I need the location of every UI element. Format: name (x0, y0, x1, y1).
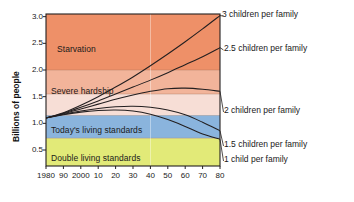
series-label-2-children: 2 children per family (224, 105, 300, 115)
y-tick-label-1.5: 1.5 (18, 92, 43, 101)
x-tick-label-80: 80 (207, 171, 233, 180)
y-tick-label-2.5: 2.5 (18, 38, 43, 47)
series-label-1.5-children: 1.5 children per family (224, 139, 307, 149)
series-label-2.5-children: 2.5 children per family (224, 43, 307, 53)
y-tick-label-1.0: 1.0 (18, 118, 43, 127)
band-label-severe-hardship: Severe hardship (51, 86, 114, 96)
y-tick-label-3.0: 3.0 (18, 12, 43, 21)
band-label-starvation: Starvation (57, 44, 96, 54)
series-label-1-child: 1 child per family (224, 154, 288, 164)
band-label-todays-living-standards: Today's living standards (51, 125, 142, 135)
series-label-3-children: 3 children per family (222, 9, 298, 19)
band-starvation (46, 14, 220, 70)
population-projection-chart: Billions of people 0.51.01.52.02.53.0 19… (0, 0, 354, 202)
y-tick-label-2.0: 2.0 (18, 65, 43, 74)
y-axis-title: Billions of people (11, 71, 21, 142)
y-tick-label-0.5: 0.5 (18, 145, 43, 154)
band-label-double-living-standards: Double living standards (51, 153, 141, 163)
